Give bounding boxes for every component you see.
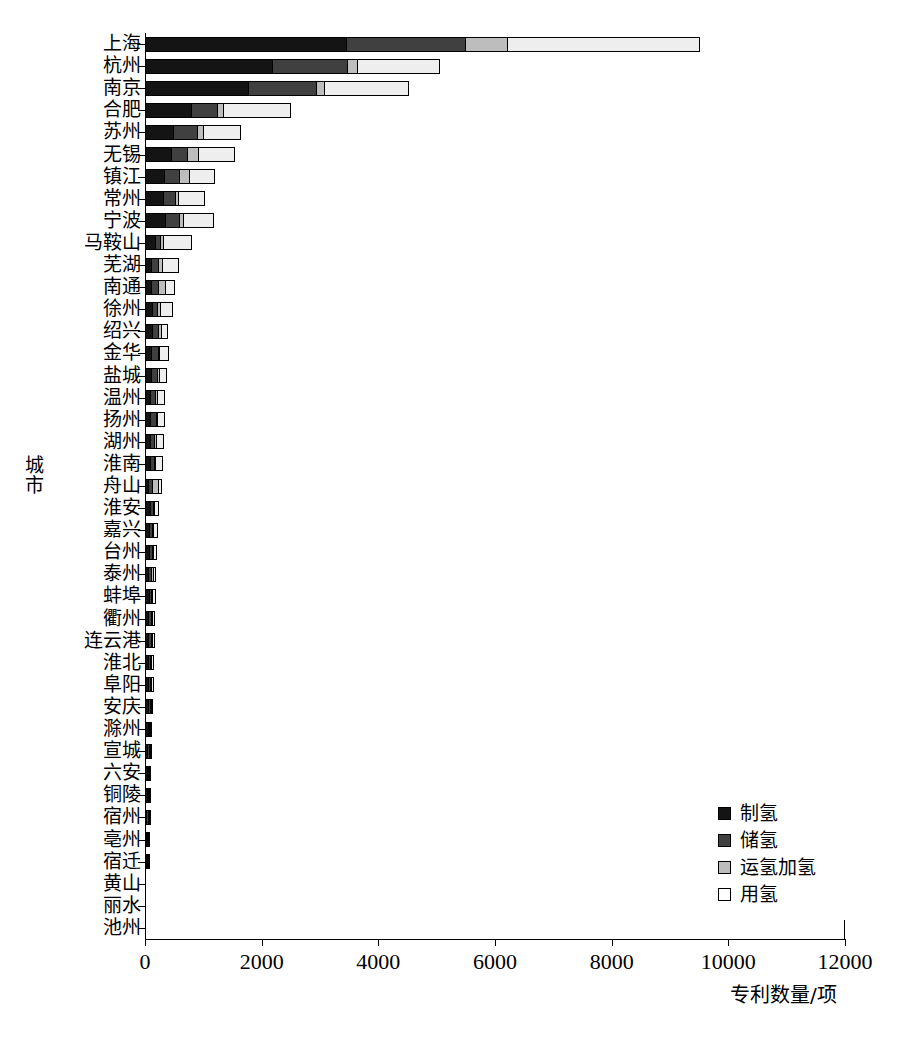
y-axis-tick-label: 亳州 [103, 830, 141, 849]
y-axis-tick-label: 淮安 [103, 498, 141, 517]
bar-segment [145, 213, 165, 228]
bar-segment [198, 147, 235, 162]
y-axis-tick-label: 镇江 [103, 167, 141, 186]
bar-row [145, 147, 235, 162]
y-axis-tick-label: 无锡 [103, 145, 141, 164]
bar-segment [145, 324, 152, 339]
bar-row [145, 655, 154, 670]
legend-label: 储氢 [740, 831, 778, 850]
bar-row [145, 103, 291, 118]
bar-segment [203, 125, 241, 140]
bar-segment [272, 59, 347, 74]
bar-segment [153, 523, 157, 538]
legend-label: 用氢 [740, 885, 778, 904]
bar-row [145, 434, 164, 449]
legend: 制氢储氢运氢加氢用氢 [718, 800, 816, 908]
bar-segment [160, 302, 173, 317]
bar-segment [163, 191, 176, 206]
y-axis-tick-label: 连云港 [84, 631, 141, 650]
bar-row [145, 390, 165, 405]
bar-row [145, 633, 155, 648]
bar-segment [151, 280, 158, 295]
x-axis-tick [845, 939, 846, 946]
bar-segment [173, 125, 197, 140]
bar-segment [161, 324, 168, 339]
bar-segment [165, 280, 174, 295]
bar-row [145, 810, 151, 825]
bar-row [145, 59, 440, 74]
legend-item: 运氢加氢 [718, 854, 816, 881]
bar-row [145, 81, 409, 96]
y-axis-title: 城市 [22, 455, 43, 495]
y-axis-tick-label: 池州 [103, 918, 141, 937]
bar-segment [152, 611, 156, 626]
bar-row [145, 213, 214, 228]
bar-segment [159, 368, 167, 383]
bar-segment [149, 810, 151, 825]
y-axis-tick-label: 湖州 [103, 432, 141, 451]
bar-segment [178, 191, 205, 206]
y-axis-tick-label: 金华 [103, 343, 141, 362]
bar-segment [148, 854, 150, 869]
bar-segment [162, 258, 178, 273]
y-axis-tick-label: 盐城 [103, 366, 141, 385]
bar-segment [151, 677, 153, 692]
bar-segment [159, 346, 169, 361]
x-axis-tick-label: 12000 [818, 950, 873, 974]
y-axis-tick-label: 淮北 [103, 653, 141, 672]
y-axis-tick-label: 南京 [103, 78, 141, 97]
bar-row [145, 788, 151, 803]
bar-segment [149, 788, 151, 803]
bar-segment [171, 147, 187, 162]
bar-row [145, 567, 156, 582]
y-axis-tick-label: 马鞍山 [84, 233, 141, 252]
x-axis-tick-label: 2000 [240, 950, 284, 974]
bar-segment [248, 81, 317, 96]
bar-segment [150, 744, 152, 759]
legend-swatch-icon [718, 888, 731, 901]
bar-segment [145, 191, 163, 206]
bar-segment [163, 235, 192, 250]
y-axis-tick-label: 上海 [103, 34, 141, 53]
y-axis-tick-label: 安庆 [103, 697, 141, 716]
x-axis-right-cap [844, 920, 845, 939]
y-axis-tick-label: 扬州 [103, 410, 141, 429]
bar-segment [223, 103, 291, 118]
y-axis-tick-label: 苏州 [103, 122, 141, 141]
bar-segment [158, 479, 163, 494]
y-axis-tick-label: 蚌埠 [103, 586, 141, 605]
bar-row [145, 722, 152, 737]
bar-row [145, 501, 159, 516]
y-axis-tick-label: 黄山 [103, 874, 141, 893]
bar-segment [145, 81, 248, 96]
y-axis-tick-label: 宣城 [103, 741, 141, 760]
x-axis-tick-label: 10000 [701, 950, 756, 974]
y-axis-tick-label: 衢州 [103, 609, 141, 628]
y-axis-tick-label: 舟山 [103, 476, 141, 495]
y-axis-tick-label: 滁州 [103, 719, 141, 738]
bar-row [145, 235, 192, 250]
bar-segment [189, 169, 215, 184]
bar-segment [191, 103, 217, 118]
bar-segment [145, 169, 164, 184]
x-axis-tick [262, 939, 263, 946]
y-axis-tick-label: 铜陵 [103, 785, 141, 804]
bar-segment [150, 722, 152, 737]
y-axis-tick-label: 淮南 [103, 454, 141, 473]
bar-segment [145, 37, 346, 52]
bar-segment [151, 699, 153, 714]
bar-row [145, 412, 165, 427]
bar-row [145, 280, 175, 295]
bar-segment [157, 390, 165, 405]
bar-segment [346, 37, 465, 52]
legend-label: 制氢 [740, 804, 778, 823]
bar-segment [145, 302, 152, 317]
bar-segment [187, 147, 198, 162]
bar-row [145, 832, 150, 847]
legend-item: 储氢 [718, 827, 816, 854]
y-axis-tick-label: 台州 [103, 542, 141, 561]
y-axis-tick-label: 阜阳 [103, 675, 141, 694]
bar-segment [156, 434, 164, 449]
bar-segment [347, 59, 357, 74]
bar-segment [165, 213, 178, 228]
